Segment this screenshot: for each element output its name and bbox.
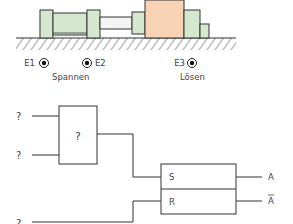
piston-rod <box>100 17 132 29</box>
wire-input-to-reset <box>133 201 161 222</box>
svg-text:E2: E2 <box>95 58 106 68</box>
sensor-e1: E1 <box>24 58 48 68</box>
clamp-jaw <box>132 12 145 34</box>
output-a-label: A <box>268 172 274 182</box>
pneumatic-cylinder <box>40 10 100 38</box>
input-3-label: ? <box>16 218 21 224</box>
pneumatic-clamping-diagram: E1 E2 Spannen E3 Lösen ? ? ? ? S R <box>0 0 293 224</box>
output-a-negated-label: A <box>268 196 274 206</box>
sensor-e2: E2 <box>83 58 106 68</box>
gate-label: ? <box>75 130 81 143</box>
svg-text:E1: E1 <box>24 58 35 68</box>
sr-latch: S R <box>161 164 236 214</box>
workpiece <box>145 0 184 38</box>
reset-label: R <box>169 197 175 207</box>
caption-loesen: Lösen <box>180 72 205 82</box>
input-2-label: ? <box>16 150 21 161</box>
fixed-stop <box>184 10 209 38</box>
unknown-gate: ? <box>59 106 97 164</box>
caption-spannen: Spannen <box>52 72 89 82</box>
wire-gate-to-set <box>97 134 161 177</box>
input-1-label: ? <box>16 111 21 122</box>
sensor-e3: E3 <box>174 58 196 68</box>
svg-text:E3: E3 <box>174 58 185 68</box>
set-label: S <box>169 172 174 182</box>
logic-outputs: A A <box>236 172 274 206</box>
ground <box>16 38 236 50</box>
